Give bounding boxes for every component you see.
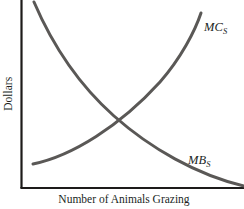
mc-label-subscript: S	[223, 26, 227, 36]
mb-label-main: MB	[188, 153, 206, 167]
mc-label-main: MC	[204, 20, 223, 34]
x-axis-title: Number of Animals Grazing	[21, 194, 227, 206]
mb-curve-label: MBS	[188, 154, 210, 167]
mb-label-subscript: S	[206, 159, 210, 169]
mc-supply-curve	[33, 13, 201, 164]
economics-graph-figure: MCS MBS Dollars Number of Animals Grazin…	[0, 0, 244, 209]
y-axis-title: Dollars	[3, 62, 15, 126]
mc-curve-label: MCS	[204, 21, 227, 34]
